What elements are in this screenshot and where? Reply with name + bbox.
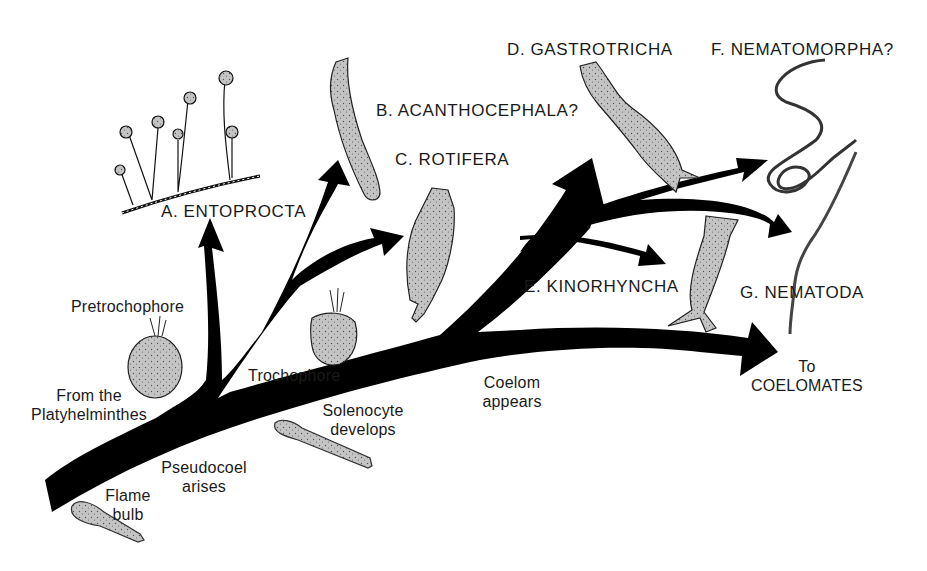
- entoproct-illustration: [115, 71, 260, 213]
- pseudocoel-label-line1: Pseudocoel: [156, 458, 252, 477]
- pseudocoel-label-line2: arises: [156, 477, 252, 496]
- trochophore-label: Trochophore: [248, 366, 340, 385]
- origin-label-line2: Platyhelminthes: [26, 405, 152, 424]
- solenocyte-label: Solenocyte develops: [316, 401, 410, 439]
- trochophore-illustration: [311, 313, 357, 365]
- pretrochophore-label: Pretrochophore: [71, 297, 184, 316]
- coelomates-label: To COELOMATES: [746, 357, 868, 395]
- coelom-label: Coelom appears: [475, 373, 549, 411]
- pretrochophore-cilia: [150, 316, 166, 336]
- rotifer-illustration: [407, 188, 454, 322]
- coelomates-label-line2: COELOMATES: [746, 376, 868, 395]
- clade-label-rotifera: C. ROTIFERA: [395, 150, 509, 169]
- solenocyte-label-line2: develops: [316, 420, 410, 439]
- coelom-label-line1: Coelom: [475, 373, 549, 392]
- pseudocoel-label: Pseudocoel arises: [156, 458, 252, 496]
- flame-bulb-label-line2: bulb: [100, 505, 156, 524]
- flame-bulb-label: Flame bulb: [100, 486, 156, 524]
- clade-label-nematomorpha: F. NEMATOMORPHA?: [711, 40, 894, 59]
- nematode-illustration: [790, 152, 856, 334]
- solenocyte-label-line1: Solenocyte: [316, 401, 410, 420]
- coelom-label-line2: appears: [475, 392, 549, 411]
- flame-bulb-label-line1: Flame: [100, 486, 156, 505]
- origin-label: From the Platyhelminthes: [26, 386, 152, 424]
- gastrotrich-illustration: [580, 62, 700, 192]
- nematomorph-illustration: [768, 60, 856, 192]
- clade-label-nematoda: G. NEMATODA: [740, 283, 864, 302]
- coelomates-label-line1: To: [746, 357, 868, 376]
- kinorhynch-illustration: [668, 216, 738, 332]
- clade-label-kinorhyncha: E. KINORHYNCHA: [524, 277, 679, 296]
- trochophore-cilia: [330, 288, 344, 312]
- clade-label-gastrotricha: D. GASTROTRICHA: [507, 40, 673, 59]
- clade-label-acanthocephala: B. ACANTHOCEPHALA?: [376, 101, 579, 120]
- phylogeny-diagram: A. ENTOPROCTA B. ACANTHOCEPHALA? C. ROTI…: [0, 0, 927, 571]
- clade-label-entoprocta: A. ENTOPROCTA: [161, 202, 306, 221]
- origin-label-line1: From the: [26, 386, 152, 405]
